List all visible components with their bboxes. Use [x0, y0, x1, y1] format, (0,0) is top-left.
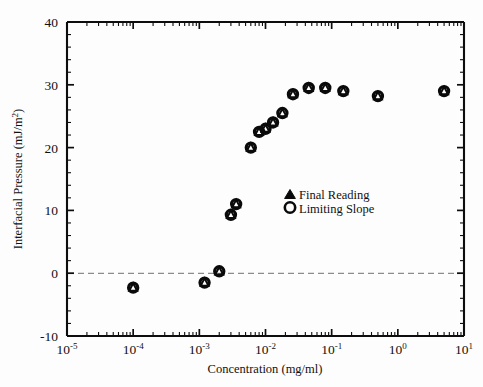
x-tick-label: 10-4: [123, 341, 144, 357]
scatter-plot: -10010203040 10-510-410-310-210-1100101 …: [0, 0, 483, 387]
y-tick-label: 20: [45, 141, 59, 156]
y-axis-title-main: Interfacial Pressure (mJ/m: [11, 117, 25, 249]
figure-container: -10010203040 10-510-410-310-210-1100101 …: [0, 0, 483, 387]
y-axis-title: Interfacial Pressure (mJ/m2): [10, 109, 25, 250]
circle-marker-icon: [285, 202, 295, 212]
plot-frame: [67, 22, 464, 336]
y-tick-label: 40: [45, 15, 59, 30]
y-tick-label: 10: [45, 203, 59, 218]
x-tick-label: 101: [455, 341, 473, 357]
chart-legend: Final Reading Limiting Slope: [285, 188, 375, 216]
y-tick-label: 30: [45, 78, 59, 93]
x-tick-label: 10-1: [321, 341, 342, 357]
x-tick-label: 100: [389, 341, 408, 357]
x-tick-label: 10-3: [189, 341, 210, 357]
svg-text:Interfacial Pressure (mJ/m2): Interfacial Pressure (mJ/m2): [10, 109, 25, 250]
legend-label-final-reading: Final Reading: [299, 188, 370, 202]
y-tick-label: -10: [40, 329, 58, 344]
x-tick-label: 10-2: [255, 341, 276, 357]
data-markers-limiting-slope: [129, 83, 449, 292]
y-tick-label: 0: [51, 266, 58, 281]
y-axis-tick-labels: -10010203040: [40, 15, 58, 344]
data-markers-final-reading: [129, 84, 448, 291]
x-axis-tick-labels: 10-510-410-310-210-1100101: [57, 341, 474, 357]
x-axis-ticks: [67, 22, 464, 336]
x-tick-label: 10-5: [57, 341, 78, 357]
y-axis-title-close: ): [11, 109, 25, 113]
triangle-marker-icon: [285, 190, 296, 199]
y-axis-ticks: [67, 22, 464, 336]
legend-label-limiting-slope: Limiting Slope: [299, 202, 375, 216]
x-axis-title: Concentration (mg/ml): [208, 362, 323, 376]
